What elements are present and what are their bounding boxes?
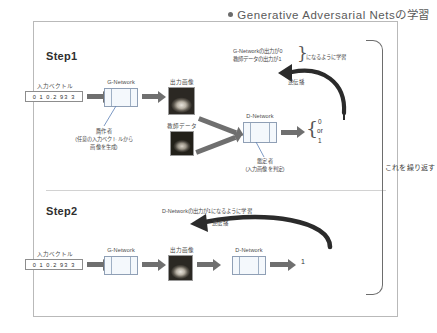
bullet-dot-icon <box>228 12 233 17</box>
step1-objective-line2: 教師データの出力が1 <box>233 55 282 63</box>
step2-heading: Step2 <box>46 205 77 217</box>
step1-dnetwork-block <box>243 122 277 143</box>
step2-objective-note: D-Networkの出力が1になるように学習 <box>162 207 252 215</box>
step1-input-vector-label: 入力ベクトル <box>27 82 83 90</box>
slide-canvas: Generative Adversarial Netsの学習 これを繰り返す S… <box>0 0 437 333</box>
step1-gnetwork-note-line2: (任意の入力ベクトルから <box>62 136 146 144</box>
step1-gnetwork-note: 贋作者 (任意の入力ベクトルから 画像を生成) <box>62 128 146 151</box>
step1-result-mid: or <box>312 126 328 135</box>
step1-gnetwork-label: G-Network <box>98 79 144 85</box>
step1-backprop-label: 逆伝播 <box>279 78 313 86</box>
step2-output-image-label: 出力画像 <box>162 246 202 254</box>
step2-arrow-gnetwork-to-output <box>142 259 166 271</box>
step1-teacher-data-thumbnail <box>170 131 194 156</box>
step2-result: 1 <box>301 258 305 265</box>
step2-output-image-thumbnail <box>168 255 193 281</box>
step1-input-vector-value: 0 1 0.2 93 3 <box>25 91 83 102</box>
step2-backprop-label: 逆伝播 <box>203 219 237 227</box>
step2-arrow-output-to-dnetwork <box>197 259 221 271</box>
step1-gnetwork-note-line3: 画像を生成) <box>62 144 146 152</box>
step1-output-image-thumbnail <box>168 87 195 115</box>
step1-gnetwork-block <box>104 88 138 107</box>
step1-result-top: 0 <box>312 117 328 126</box>
step1-result-bottom: 1 <box>312 136 328 145</box>
repeat-label: これを繰り返す <box>385 162 437 172</box>
step2-gnetwork-block <box>104 256 138 275</box>
step1-dnetwork-note-line2: (入力画像を判定) <box>228 166 302 174</box>
step2-dnetwork-label: D-Network <box>226 247 272 253</box>
step1-objective-suffix: になるように学習 <box>306 53 346 61</box>
step1-objective-note: G-Networkの出力が0 教師データの出力が1 <box>233 47 282 64</box>
repeat-bracket-icon <box>366 40 383 295</box>
step2-input-vector-value: 0 1 0.2 93 3 <box>25 259 83 270</box>
step1-dnetwork-note-line1: 鑑定者 <box>228 158 302 166</box>
page-title: Generative Adversarial Netsの学習 <box>237 6 430 22</box>
step1-output-image-label: 出力画像 <box>162 78 202 86</box>
step2-dnetwork-block <box>232 256 266 275</box>
step1-arrow-dnetwork-to-result <box>281 126 305 138</box>
step1-dnetwork-note: 鑑定者 (入力画像を判定) <box>228 158 302 174</box>
step1-arrow-gnetwork-to-output <box>142 91 166 103</box>
step1-result-group: 0 or 1 <box>312 117 328 145</box>
step1-objective-line1: G-Networkの出力が0 <box>233 47 282 55</box>
step1-gnetwork-note-line1: 贋作者 <box>62 128 146 136</box>
diagram-frame <box>33 21 398 317</box>
step1-dnetwork-label: D-Network <box>237 113 283 119</box>
slide-title-row: Generative Adversarial Netsの学習 <box>0 6 437 22</box>
step1-heading: Step1 <box>46 50 77 62</box>
step2-input-vector-label: 入力ベクトル <box>27 250 83 258</box>
step2-gnetwork-label: G-Network <box>98 247 144 253</box>
step2-arrow-dnetwork-to-result <box>270 259 296 271</box>
step-divider <box>46 190 386 191</box>
